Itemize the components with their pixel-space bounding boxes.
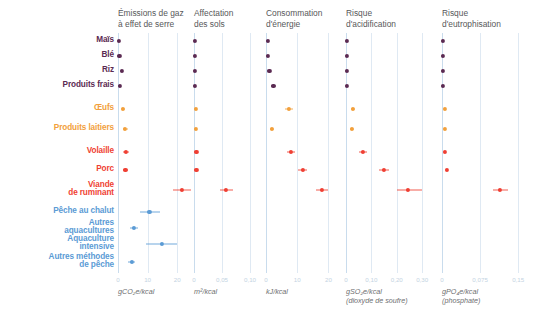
gridline <box>422 33 423 273</box>
plot-area <box>194 33 264 273</box>
data-point <box>123 168 127 172</box>
gridline <box>250 33 251 273</box>
plot-area <box>346 33 440 273</box>
multi-panel-dot-plot: MaïsBléRizProduits fraisŒufsProduits lai… <box>0 0 538 325</box>
data-point <box>123 127 127 131</box>
data-point <box>287 107 291 111</box>
panel-eutrophisation: Risque d'eutrophisation00,0750,15gPO₄e/k… <box>442 0 536 325</box>
data-point <box>443 107 447 111</box>
data-point <box>345 84 349 88</box>
category-label: Maïs <box>96 36 114 45</box>
data-point <box>350 127 354 131</box>
data-point <box>270 127 274 131</box>
data-point <box>443 127 447 131</box>
tick-label: 10 <box>294 276 301 283</box>
category-label: Produits laitiers <box>54 124 114 133</box>
data-point <box>345 69 349 73</box>
data-point <box>117 54 121 58</box>
data-point <box>194 150 198 154</box>
panel-title: Émissions de gaz à effet de serre <box>118 8 184 29</box>
gridline <box>397 33 398 273</box>
data-point <box>117 38 121 42</box>
data-point <box>289 150 293 154</box>
panel-energie: Consommation d'énergie01020kJ/kcal <box>266 0 344 325</box>
tick-label: 0 <box>116 276 119 283</box>
gridline <box>297 33 298 273</box>
tick-label: 0,30 <box>416 276 428 283</box>
data-point <box>320 188 324 192</box>
tick-label: 0,10 <box>365 276 377 283</box>
data-point <box>441 54 445 58</box>
tick-label: 0,15 <box>512 276 524 283</box>
axis-unit-label: m²/kcal <box>194 287 217 296</box>
category-label: Viande de ruminant <box>68 181 114 198</box>
data-point <box>441 84 445 88</box>
panel-title: Risque d'acidification <box>346 8 396 29</box>
gridline <box>371 33 372 273</box>
panel-title: Consommation d'énergie <box>266 8 322 29</box>
data-point <box>443 150 447 154</box>
tick-label: 0 <box>344 276 347 283</box>
data-point <box>193 84 197 88</box>
tick-label: 0,075 <box>472 276 487 283</box>
panel-ges: Émissions de gaz à effet de serre01020gC… <box>118 0 192 325</box>
data-point <box>266 54 270 58</box>
data-point <box>194 127 198 131</box>
category-label: Riz <box>102 66 114 75</box>
data-point <box>382 168 386 172</box>
data-point <box>118 84 122 88</box>
data-point <box>265 38 269 42</box>
category-label: Autres méthodes de pêche <box>49 253 114 270</box>
data-point <box>180 188 184 192</box>
category-label-column: MaïsBléRizProduits fraisŒufsProduits lai… <box>0 0 114 325</box>
data-point <box>267 69 271 73</box>
category-label: Porc <box>96 165 114 174</box>
data-point <box>345 54 349 58</box>
data-point <box>498 188 502 192</box>
data-point <box>130 260 134 264</box>
data-point <box>194 107 198 111</box>
tick-label: 0 <box>264 276 267 283</box>
panel-title: Affectation des sols <box>194 8 233 29</box>
tick-label: 0,20 <box>391 276 403 283</box>
data-point <box>147 210 151 214</box>
data-point <box>224 188 228 192</box>
data-point <box>124 150 128 154</box>
data-point <box>194 168 198 172</box>
gridline <box>222 33 223 273</box>
axis-unit-label: gPO₄e/kcal (phosphate) <box>442 287 480 305</box>
data-point <box>301 168 305 172</box>
data-point <box>121 107 125 111</box>
data-point <box>120 69 124 73</box>
gridline <box>480 33 481 273</box>
data-point <box>361 150 365 154</box>
gridline <box>118 33 119 273</box>
data-point <box>132 226 136 230</box>
plot-area <box>266 33 344 273</box>
gridline <box>328 33 329 273</box>
axis-unit-label: gCO₂e/kcal <box>118 287 154 296</box>
axis-unit-label: gSO₂e/kcal (dioxyde de soufre) <box>346 287 408 305</box>
tick-label: 20 <box>174 276 181 283</box>
tick-label: 10 <box>144 276 151 283</box>
category-label: Produits frais <box>63 81 114 90</box>
gridline <box>518 33 519 273</box>
tick-label: 0,10 <box>244 276 256 283</box>
axis-unit-label: kJ/kcal <box>266 287 288 296</box>
category-label: Pêche au chalut <box>53 207 114 216</box>
category-label: Blé <box>102 51 114 60</box>
category-label: Volaille <box>87 147 114 156</box>
category-label: Aquaculture intensive <box>67 235 114 252</box>
data-point <box>444 168 448 172</box>
data-point <box>271 84 275 88</box>
data-point <box>441 69 445 73</box>
gridline <box>148 33 149 273</box>
panel-sols: Affectation des sols00,050,10m²/kcal <box>194 0 264 325</box>
data-point <box>345 38 349 42</box>
tick-label: 0 <box>440 276 443 283</box>
tick-label: 0 <box>192 276 195 283</box>
data-point <box>441 38 445 42</box>
data-point <box>193 38 197 42</box>
category-label: Œufs <box>94 104 114 113</box>
tick-label: 20 <box>325 276 332 283</box>
